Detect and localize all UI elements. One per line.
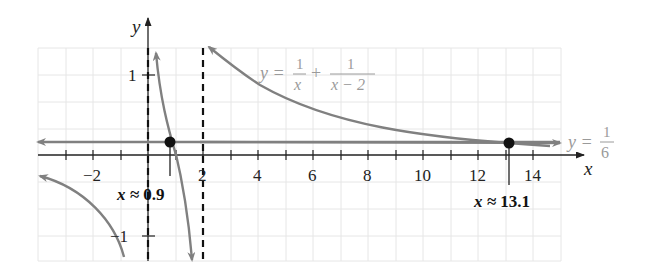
svg-text:+: + [311,63,321,83]
intersection-label-1: x ≈ 0.9 [116,185,165,204]
graph: y x −2 2 4 6 8 10 12 14 1 −1 y = 1 x + 1… [0,0,651,280]
svg-text:6: 6 [601,144,609,161]
y-axis-label: y [130,16,141,37]
curve-branch-right [209,47,550,146]
intersection-point-2 [504,138,515,149]
tick-label: 4 [253,166,262,185]
svg-text:x: x [293,76,301,93]
tick-label: −2 [83,166,101,185]
svg-text:y =: y = [258,63,285,83]
y-tick-label-1: 1 [128,66,137,85]
svg-text:1: 1 [603,124,611,140]
intersection-label-2: x ≈ 13.1 [473,192,530,211]
svg-text:x ≈ 13.1: x ≈ 13.1 [473,192,530,211]
tick-label: 6 [308,166,317,185]
y-tick-label-neg1: −1 [110,227,128,246]
tick-label: 14 [524,166,542,185]
svg-text:y =: y = [566,132,593,152]
tick-label: 12 [469,166,486,185]
svg-text:1: 1 [347,56,355,72]
x-axis-label: x [583,158,593,179]
intersection-point-1 [165,137,176,148]
tick-label: 2 [198,166,207,185]
curve-equation-label: y = 1 x + 1 x − 2 [258,56,375,93]
svg-text:1: 1 [296,56,304,72]
curve-branch-middle-down [175,150,192,260]
svg-text:x ≈ 0.9: x ≈ 0.9 [116,185,165,204]
tick-label: 8 [363,166,372,185]
tick-label: 10 [414,166,431,185]
svg-text:x − 2: x − 2 [330,76,365,93]
